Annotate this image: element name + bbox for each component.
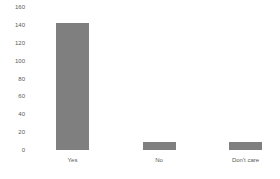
x-category-label: Don't care bbox=[206, 157, 280, 164]
bar-don-t-care bbox=[229, 142, 262, 150]
y-tick-label: 40 bbox=[3, 111, 25, 118]
y-tick-label: 80 bbox=[3, 76, 25, 83]
bar-no bbox=[143, 142, 176, 150]
bar-chart: 020406080100120140160 YesNoDon't care bbox=[0, 0, 279, 179]
x-category-label: No bbox=[119, 157, 199, 164]
y-tick-label: 120 bbox=[3, 40, 25, 47]
y-tick-label: 160 bbox=[3, 4, 25, 11]
x-category-label: Yes bbox=[33, 157, 113, 164]
y-tick-label: 0 bbox=[3, 147, 25, 154]
y-tick-label: 140 bbox=[3, 22, 25, 29]
y-tick-label: 60 bbox=[3, 93, 25, 100]
y-tick-label: 100 bbox=[3, 58, 25, 65]
bar-yes bbox=[56, 23, 89, 151]
y-tick-label: 20 bbox=[3, 129, 25, 136]
